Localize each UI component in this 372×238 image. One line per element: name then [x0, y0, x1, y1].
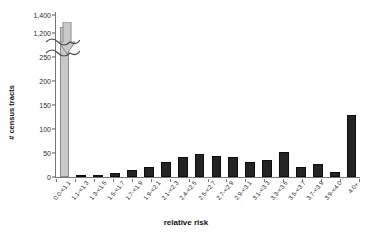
bar-slot [191, 12, 208, 177]
bar-slot [107, 12, 124, 177]
bar-slot [259, 12, 276, 177]
bar-13 [279, 152, 289, 177]
x-tick-label: 1.1-<1.3 [73, 181, 91, 217]
bar-17 [347, 115, 357, 177]
bar-slot [90, 12, 107, 177]
bar-10 [228, 157, 238, 177]
x-tick-label: 3.3-<3.5 [272, 181, 290, 217]
bar-6 [161, 162, 171, 177]
x-tick-label: 2.7-<2.9 [218, 181, 236, 217]
x-tick-label: 2.9-<3.1 [236, 181, 254, 217]
bar-4 [127, 170, 137, 177]
bar-slot [208, 12, 225, 177]
x-axis-title: relative risk [0, 218, 372, 227]
x-tick-label-text: 3.3-<3.5 [268, 179, 288, 201]
bar-slot [326, 12, 343, 177]
y-tick-label-50: 50 [17, 150, 55, 157]
bar-7 [178, 157, 188, 177]
bar-1 [76, 175, 86, 177]
x-axis-categories: 0.0-<1.1 1.1-<1.3 1.3-<1.5 1.5-<1.7 1.7-… [55, 181, 362, 217]
bar-14 [296, 167, 306, 177]
x-tick-label: 2.4-<2.5 [181, 181, 199, 217]
bar-slot [174, 12, 191, 177]
bar-slot [56, 12, 73, 177]
bar-0 [60, 27, 70, 177]
x-tick-label-text: 1.9-<2.1 [142, 179, 162, 201]
bar-slot [292, 12, 309, 177]
bar-series [56, 12, 360, 177]
plot-area: 0 50 100 150 200 250 1,200 1,400 [55, 12, 360, 178]
bar-9 [212, 156, 222, 177]
bar-slot [225, 12, 242, 177]
x-tick-label-text: 3.9-<4.0 [323, 179, 343, 201]
x-tick-label-text: 2.7-<2.9 [214, 179, 234, 201]
x-tick-label: 2.5-<2.7 [200, 181, 218, 217]
x-tick-label-text: 1.7-<1.9 [124, 179, 144, 201]
x-tick-label-text: 2.4-<2.5 [178, 179, 198, 201]
x-tick-label: 3.9-<4.0 [326, 181, 344, 217]
x-tick-label-text: 1.3-<1.5 [88, 179, 108, 201]
y-axis-title: # census tracts [4, 62, 18, 162]
y-tick-label-100: 100 [17, 126, 55, 133]
x-tick-label: 1.9-<2.1 [145, 181, 163, 217]
y-tick-label-250: 250 [17, 54, 55, 61]
bar-slot [140, 12, 157, 177]
x-tick-label-text: 3.1-<3.3 [250, 179, 270, 201]
x-tick-label: 3.1-<3.3 [254, 181, 272, 217]
bar-8 [195, 154, 205, 177]
y-axis-title-text: # census tracts [7, 85, 16, 140]
x-tick-label-text: 2.5-<2.7 [196, 179, 216, 201]
bar-11 [245, 162, 255, 177]
x-tick-label: 3.7-<3.9 [308, 181, 326, 217]
x-tick-label: 3.5-<3.7 [290, 181, 308, 217]
x-tick-label-text: 4.0+ [346, 181, 359, 195]
y-tick-label-150: 150 [17, 102, 55, 109]
x-tick-label-text: 2.9-<3.1 [232, 179, 252, 201]
bar-slot [124, 12, 141, 177]
x-tick-label-text: 1.5-<1.7 [106, 179, 126, 201]
bar-12 [262, 160, 272, 177]
bar-5 [144, 167, 154, 177]
bar-16 [330, 172, 340, 177]
bar-3 [110, 173, 120, 177]
bar-slot [73, 12, 90, 177]
bar-2 [93, 175, 103, 177]
x-tick-label-text: 2.1-<2.3 [160, 179, 180, 201]
bar-slot [242, 12, 259, 177]
x-tick-label-text: 0.0-<1.1 [52, 179, 72, 201]
bar-slot [157, 12, 174, 177]
bar-slot [309, 12, 326, 177]
bar-chart: # census tracts 0 50 100 150 200 250 [0, 0, 372, 238]
bar-slot [343, 12, 360, 177]
x-tick-label: 1.7-<1.9 [127, 181, 145, 217]
x-tick-label: 1.5-<1.7 [109, 181, 127, 217]
x-tick-label: 1.3-<1.5 [91, 181, 109, 217]
x-axis-line [55, 177, 360, 178]
y-tick-label-1400: 1,400 [17, 12, 55, 19]
y-tick-label-0: 0 [17, 174, 55, 181]
x-tick-label: 0.0-<1.1 [55, 181, 73, 217]
x-tick-label-text: 3.5-<3.7 [286, 179, 306, 201]
x-tick-label-text: 3.7-<3.9 [305, 179, 325, 201]
y-tick-label-1200: 1,200 [17, 30, 55, 37]
bar-slot [276, 12, 293, 177]
bar-15 [313, 164, 323, 177]
x-tick-label-text: 1.1-<1.3 [70, 179, 90, 201]
x-tick-label: 4.0+ [344, 181, 362, 217]
y-tick-label-200: 200 [17, 78, 55, 85]
x-tick-label: 2.1-<2.3 [163, 181, 181, 217]
